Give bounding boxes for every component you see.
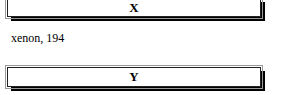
- box-x: X: [7, 0, 261, 17]
- box-y-label: Y: [129, 69, 138, 85]
- box-y: Y: [7, 67, 261, 87]
- box-x-label: X: [129, 0, 138, 16]
- caption-text: xenon, 194: [11, 31, 64, 46]
